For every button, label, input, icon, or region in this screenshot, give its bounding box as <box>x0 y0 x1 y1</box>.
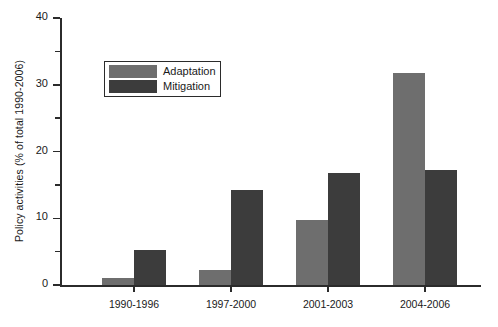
bar-adaptation-2004-2006 <box>393 73 425 285</box>
bar-adaptation-1990-1996 <box>102 278 134 285</box>
legend-label-mitigation: Mitigation <box>163 80 210 93</box>
x-tick-label-2001-2003: 2001-2003 <box>273 298 383 310</box>
y-tick-label-40: 40 <box>18 10 48 22</box>
bar-mitigation-2001-2003 <box>328 173 360 285</box>
y-tick-20 <box>53 151 60 153</box>
y-tick-label-10: 10 <box>18 210 48 222</box>
chart-legend: Adaptation Mitigation <box>104 61 221 97</box>
y-tick-label-20: 20 <box>18 144 48 156</box>
plot-area <box>60 18 481 285</box>
bar-adaptation-2001-2003 <box>296 220 328 285</box>
x-tick-2004-2006 <box>424 285 425 292</box>
bar-chart-figure: Policy activities (% of total 1990-2006)… <box>0 0 498 327</box>
x-tick-1997-2000 <box>230 285 231 292</box>
y-tick-label-0: 0 <box>18 277 48 289</box>
x-tick-2001-2003 <box>327 285 328 292</box>
x-tick-label-1990-1996: 1990-1996 <box>79 298 189 310</box>
y-tick-0 <box>53 284 60 286</box>
legend-swatch-mitigation <box>109 80 157 93</box>
legend-item-mitigation: Mitigation <box>109 80 216 93</box>
bar-mitigation-2004-2006 <box>425 170 457 285</box>
x-tick-1990-1996 <box>133 285 134 292</box>
y-tick-10 <box>53 218 60 220</box>
bar-adaptation-1997-2000 <box>199 270 231 285</box>
y-tick-40 <box>53 17 60 19</box>
x-axis-line <box>60 285 481 287</box>
x-tick-label-1997-2000: 1997-2000 <box>176 298 286 310</box>
legend-label-adaptation: Adaptation <box>163 65 216 78</box>
legend-item-adaptation: Adaptation <box>109 65 216 78</box>
bar-mitigation-1990-1996 <box>134 250 166 285</box>
bar-mitigation-1997-2000 <box>231 190 263 285</box>
legend-swatch-adaptation <box>109 65 157 78</box>
x-tick-label-2004-2006: 2004-2006 <box>370 298 480 310</box>
y-tick-label-30: 30 <box>18 77 48 89</box>
y-tick-30 <box>53 84 60 86</box>
